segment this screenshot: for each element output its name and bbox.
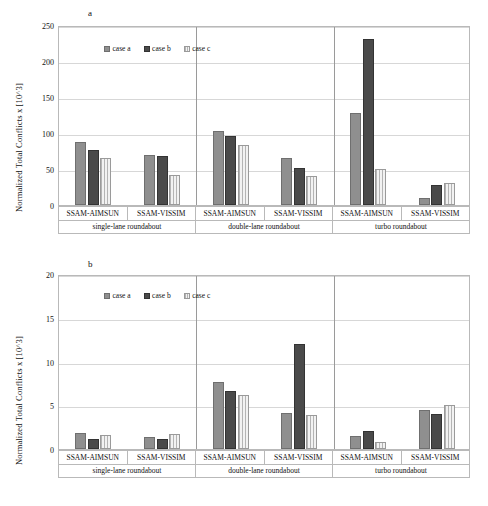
legend-swatch-icon	[144, 46, 150, 52]
legend-item-case-c: case c	[184, 291, 211, 300]
bar-case-c	[238, 145, 249, 205]
bar-case-c	[169, 434, 180, 449]
bar-case-a	[419, 198, 430, 205]
roundabout-label: single-lane roundabout	[58, 220, 195, 233]
legend-swatch-icon	[184, 46, 190, 52]
legend-swatch-icon	[144, 293, 150, 299]
panel-a: a Normalized Total Conflicts x [10^3] 05…	[0, 0, 488, 253]
simulator-label: SSAM-VISSIM	[127, 207, 196, 220]
simulator-label: SSAM-VISSIM	[401, 451, 471, 464]
y-tick-label: 10	[28, 358, 54, 367]
gridline	[59, 407, 469, 408]
bar-case-a	[213, 131, 224, 205]
panel-a-legend: case acase bcase c	[104, 44, 210, 53]
group-separator	[196, 27, 197, 205]
bar-case-b	[294, 168, 305, 205]
roundabout-label: double-lane roundabout	[195, 220, 332, 233]
bar-case-b	[294, 344, 305, 449]
legend-item-case-a: case a	[104, 44, 131, 53]
panel-b-letter: b	[88, 259, 93, 269]
bar-case-a	[419, 410, 430, 449]
panel-b-roundabout-labels: single-lane roundaboutdouble-lane rounda…	[58, 464, 470, 478]
y-tick-label: 15	[28, 314, 54, 323]
gridline	[59, 27, 469, 28]
bar-case-a	[350, 113, 361, 205]
simulator-label: SSAM-AIMSUN	[58, 451, 127, 464]
y-tick-label: 100	[28, 130, 54, 139]
simulator-label: SSAM-AIMSUN	[332, 451, 401, 464]
gridline	[59, 63, 469, 64]
y-tick-label: 200	[28, 58, 54, 67]
panel-a-simulator-labels: SSAM-AIMSUNSSAM-VISSIMSSAM-AIMSUNSSAM-VI…	[58, 206, 470, 221]
bar-case-b	[363, 39, 374, 205]
panel-b-legend: case acase bcase c	[104, 291, 210, 300]
y-tick-label: 50	[28, 166, 54, 175]
y-tick-label: 5	[28, 402, 54, 411]
bar-case-c	[100, 158, 111, 205]
roundabout-label: turbo roundabout	[332, 220, 470, 233]
y-tick-label: 20	[28, 271, 54, 280]
legend-label: case b	[152, 291, 171, 300]
bar-case-b	[431, 185, 442, 205]
legend-item-case-b: case b	[144, 291, 171, 300]
legend-swatch-icon	[104, 46, 110, 52]
bar-case-c	[375, 169, 386, 205]
bar-case-b	[225, 136, 236, 205]
panel-a-y-tick-labels: 050100150200250	[28, 0, 54, 253]
legend-label: case b	[152, 44, 171, 53]
roundabout-label: turbo roundabout	[332, 464, 470, 477]
bar-case-a	[281, 158, 292, 205]
group-separator	[334, 276, 335, 449]
legend-label: case c	[192, 291, 210, 300]
bar-case-b	[431, 414, 442, 449]
roundabout-label: single-lane roundabout	[58, 464, 195, 477]
panel-b-simulator-labels: SSAM-AIMSUNSSAM-VISSIMSSAM-AIMSUNSSAM-VI…	[58, 450, 470, 465]
legend-swatch-icon	[184, 293, 190, 299]
group-separator	[334, 27, 335, 205]
panel-b-y-tick-labels: 05101520	[28, 253, 54, 506]
bar-case-b	[225, 391, 236, 449]
y-tick-label: 0	[28, 446, 54, 455]
gridline	[59, 135, 469, 136]
panel-b: b Normalized Total Conflicts x [10^3] 05…	[0, 253, 488, 506]
gridline	[59, 99, 469, 100]
legend-item-case-a: case a	[104, 291, 131, 300]
bar-case-b	[88, 150, 99, 205]
simulator-label: SSAM-VISSIM	[401, 207, 471, 220]
panel-a-letter: a	[88, 8, 92, 18]
gridline	[59, 171, 469, 172]
bar-case-a	[75, 433, 86, 449]
panel-b-plot-area	[58, 275, 470, 450]
panel-a-y-axis-title: Normalized Total Conflicts x [10^3]	[14, 83, 24, 212]
legend-swatch-icon	[104, 293, 110, 299]
bar-case-c	[444, 183, 455, 205]
bar-case-a	[350, 436, 361, 449]
bar-case-a	[144, 437, 155, 449]
legend-label: case a	[113, 44, 131, 53]
group-separator	[196, 276, 197, 449]
panel-a-roundabout-labels: single-lane roundaboutdouble-lane rounda…	[58, 220, 470, 234]
bar-case-b	[157, 439, 168, 450]
figure-container: a Normalized Total Conflicts x [10^3] 05…	[0, 0, 488, 506]
y-tick-label: 150	[28, 94, 54, 103]
panel-a-plot-area	[58, 26, 470, 206]
bar-case-c	[444, 405, 455, 449]
simulator-label: SSAM-AIMSUN	[332, 207, 401, 220]
bar-case-a	[75, 142, 86, 205]
y-tick-label: 250	[28, 22, 54, 31]
simulator-label: SSAM-AIMSUN	[195, 451, 264, 464]
simulator-label: SSAM-VISSIM	[264, 207, 333, 220]
gridline	[59, 276, 469, 277]
bar-case-a	[144, 155, 155, 205]
bar-case-c	[306, 176, 317, 205]
bar-case-c	[238, 395, 249, 449]
legend-label: case a	[113, 291, 131, 300]
simulator-label: SSAM-VISSIM	[127, 451, 196, 464]
roundabout-label: double-lane roundabout	[195, 464, 332, 477]
bar-case-c	[100, 435, 111, 449]
bar-case-c	[375, 442, 386, 449]
gridline	[59, 364, 469, 365]
bar-case-b	[363, 431, 374, 449]
gridline	[59, 320, 469, 321]
bar-case-a	[281, 413, 292, 449]
